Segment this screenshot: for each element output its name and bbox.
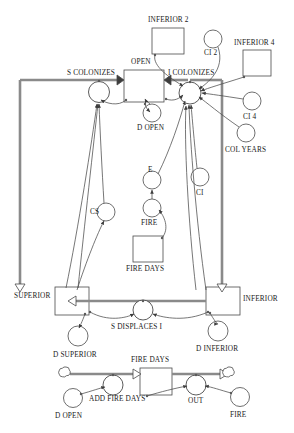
link-inferior-displaces bbox=[153, 312, 208, 318]
label-cs: CS bbox=[90, 208, 99, 215]
link-firedays-fire bbox=[159, 210, 166, 238]
link-colyears-icolonizes bbox=[199, 97, 239, 127]
diagram-canvas: INFERIOR 2 CI 2 INFERIOR 4 OPEN S COLONI… bbox=[0, 0, 294, 433]
stock-inferior-4[interactable] bbox=[243, 50, 271, 76]
cloud-source-icon bbox=[59, 367, 71, 377]
link-fire-out bbox=[205, 386, 231, 393]
label-fire: FIRE bbox=[141, 219, 157, 226]
link-cs-scolonizes bbox=[99, 104, 104, 203]
link-superior-displaces bbox=[90, 312, 134, 318]
stock-open[interactable] bbox=[124, 70, 164, 102]
aux-col-years[interactable] bbox=[237, 124, 255, 142]
stock-fire-days[interactable] bbox=[133, 236, 163, 262]
label-fire-2: FIRE bbox=[230, 411, 246, 418]
stock-inferior[interactable] bbox=[206, 287, 240, 315]
label-fire-days: FIRE DAYS bbox=[126, 265, 164, 272]
link-e-icolonizes bbox=[158, 101, 185, 174]
label-d-superior: D SUPERIOR bbox=[53, 351, 97, 358]
label-ci-4: CI 4 bbox=[243, 113, 256, 120]
label-superior: SUPERIOR bbox=[14, 292, 50, 299]
aux-ci-4[interactable] bbox=[243, 92, 261, 110]
link-superior-scolonizes-a bbox=[66, 104, 97, 288]
aux-fire-bottom[interactable] bbox=[231, 388, 250, 407]
label-s-displaces-i: S DISPLACES I bbox=[111, 323, 162, 330]
stock-fire-days-bottom[interactable] bbox=[140, 368, 172, 395]
arrowhead-open-left bbox=[117, 75, 124, 85]
label-d-open-2: D OPEN bbox=[55, 412, 82, 419]
label-inferior-4: INFERIOR 4 bbox=[234, 39, 275, 46]
link-superior-scolonizes-b bbox=[78, 104, 98, 288]
aux-fire[interactable] bbox=[143, 199, 161, 217]
label-add-fire-days: ADD FIRE DAYS bbox=[89, 395, 145, 402]
link-superior-cs bbox=[77, 221, 104, 290]
aux-cs[interactable] bbox=[97, 203, 115, 221]
valve-add-fire-days[interactable] bbox=[103, 375, 123, 395]
cloud-sink-icon bbox=[223, 367, 235, 377]
valve-s-colonizes[interactable] bbox=[89, 82, 110, 103]
label-d-inferior: D INFERIOR bbox=[196, 345, 238, 352]
label-col-years: COL YEARS bbox=[225, 146, 266, 153]
label-i-colonizes: I COLONIZES bbox=[168, 69, 214, 76]
label-inferior-2: INFERIOR 2 bbox=[148, 16, 189, 23]
label-fire-days-2: FIRE DAYS bbox=[131, 356, 169, 363]
link-inferior-icolonizes-b bbox=[185, 106, 196, 290]
label-out: OUT bbox=[188, 397, 203, 404]
flow-arrowheads bbox=[15, 75, 228, 379]
link-superior-dsuperior bbox=[79, 314, 85, 328]
label-open: OPEN bbox=[131, 58, 151, 65]
label-e: E bbox=[148, 166, 153, 173]
label-ci-2: CI 2 bbox=[204, 49, 217, 56]
link-dopen-addfiredays bbox=[81, 387, 105, 394]
label-s-colonizes: S COLONIZES bbox=[67, 69, 115, 76]
stock-inferior-2[interactable] bbox=[152, 28, 184, 54]
label-d-open: D OPEN bbox=[137, 124, 164, 131]
aux-d-superior[interactable] bbox=[68, 326, 88, 346]
aux-ci-2[interactable] bbox=[204, 30, 222, 48]
link-inferior-icolonizes-a bbox=[189, 105, 206, 290]
label-ci: CI bbox=[196, 189, 204, 196]
aux-d-open-bottom[interactable] bbox=[64, 389, 83, 408]
valve-s-displaces-i[interactable] bbox=[133, 300, 153, 320]
valve-out[interactable] bbox=[186, 375, 206, 395]
label-inferior: INFERIOR bbox=[243, 295, 278, 302]
